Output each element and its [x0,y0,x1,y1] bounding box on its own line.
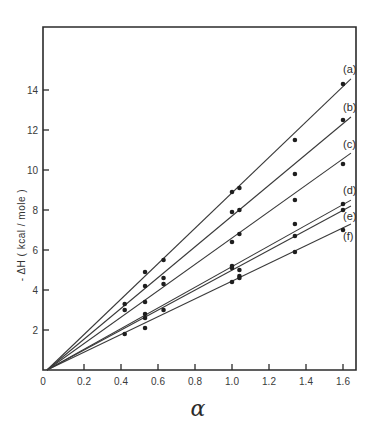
data-point [143,326,148,331]
x-tick-label: 0.4 [114,376,128,387]
data-point [122,302,127,307]
data-point [293,250,298,255]
series-label-f: (f) [343,230,353,242]
data-point [161,258,166,263]
data-point [143,284,148,289]
data-point [230,280,235,285]
data-point [293,198,298,203]
x-tick-label: 0.6 [151,376,165,387]
data-point [143,300,148,305]
data-point [143,270,148,275]
data-point [230,240,235,245]
data-point [161,282,166,287]
axes-frame [43,27,356,370]
fit-line-e [47,206,351,370]
y-tick-label: 2 [32,325,38,336]
data-points [122,82,345,337]
series-label-d: (d) [343,184,356,196]
y-tick-label: 12 [27,125,39,136]
fit-line-d [47,200,351,370]
series-label-a: (a) [343,63,356,75]
series-label-b: (b) [343,101,356,113]
series-labels: (a)(b)(c)(d)(e)(f) [343,63,356,242]
data-point [237,276,242,281]
plot-frame [43,27,356,370]
x-tick-label: 1.2 [262,376,276,387]
chart: 00.20.40.60.81.01.21.41.6 2468101214 (a)… [0,0,375,429]
fit-line-a [47,79,351,370]
y-tick-label: 10 [27,165,39,176]
y-axis-ticks: 2468101214 [27,85,49,336]
data-point [237,208,242,213]
data-point [237,268,242,273]
data-point [341,202,346,207]
y-tick-label: 6 [32,245,38,256]
x-tick-label: 0.8 [188,376,202,387]
x-tick-label: 0.2 [77,376,91,387]
data-point [341,162,346,167]
series-label-c: (c) [343,138,356,150]
x-axis-label: α [191,396,206,421]
x-axis-ticks: 00.20.40.60.81.01.21.41.6 [40,364,350,387]
x-tick-label: 1.4 [299,376,313,387]
y-tick-label: 8 [32,205,38,216]
x-tick-label: 0 [40,376,46,387]
series-label-e: (e) [343,210,356,222]
data-point [293,172,298,177]
fit-line-b [47,117,351,370]
y-tick-label: 14 [27,85,39,96]
data-point [293,222,298,227]
x-tick-label: 1.0 [225,376,239,387]
fit-line-c [47,153,351,370]
fit-lines [47,79,351,370]
data-point [237,186,242,191]
data-point [230,210,235,215]
data-point [341,118,346,123]
data-point [230,266,235,271]
data-point [161,308,166,313]
x-tick-label: 1.6 [336,376,350,387]
data-point [122,332,127,337]
data-point [230,190,235,195]
data-point [293,234,298,239]
y-tick-label: 4 [32,285,38,296]
data-point [143,312,148,317]
data-point [161,276,166,281]
y-axis-label: - ΔH ( kcal / mole ) [16,189,27,281]
data-point [341,82,346,87]
data-point [293,138,298,143]
data-point [237,232,242,237]
data-point [122,308,127,313]
data-point [143,316,148,321]
fit-line-f [47,224,351,370]
